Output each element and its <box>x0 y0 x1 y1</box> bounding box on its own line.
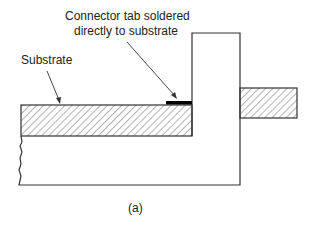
substrate <box>21 105 192 136</box>
connector-leader-line <box>127 42 175 96</box>
connector-diagram: Connector tab soldered directly to subst… <box>0 0 311 232</box>
external-tab <box>240 88 297 118</box>
connector-label-line2: directly to substrate <box>74 24 178 38</box>
substrate-leader-line <box>47 71 59 100</box>
substrate-label: Substrate <box>21 53 73 67</box>
connector-tab-solder <box>166 101 192 105</box>
substrate-leader-arrow-icon <box>56 97 61 104</box>
connector-label-line1: Connector tab soldered <box>65 9 190 23</box>
figure-caption: (a) <box>128 201 143 215</box>
